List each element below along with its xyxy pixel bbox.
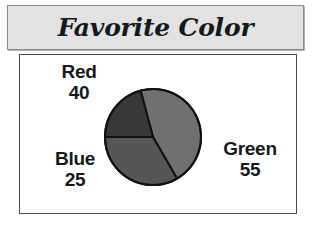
pie-label-red-value: 40 <box>46 83 112 104</box>
pie-label-red-name: Red <box>46 62 112 83</box>
chart-title-box: Favorite Color <box>7 5 304 50</box>
pie-label-red: Red 40 <box>46 62 112 103</box>
pie-label-blue-name: Blue <box>38 149 112 170</box>
page-title: Favorite Color <box>58 15 254 40</box>
pie-label-blue-value: 25 <box>38 170 112 191</box>
pie-chart-figure: Favorite Color Red 40 Blue 25 Green 55 <box>0 0 318 225</box>
pie-label-blue: Blue 25 <box>38 149 112 190</box>
pie-label-green: Green 55 <box>206 139 294 180</box>
pie-label-green-name: Green <box>206 139 294 160</box>
pie-label-green-value: 55 <box>206 160 294 181</box>
chart-plot-area: Red 40 Blue 25 Green 55 <box>19 54 297 214</box>
